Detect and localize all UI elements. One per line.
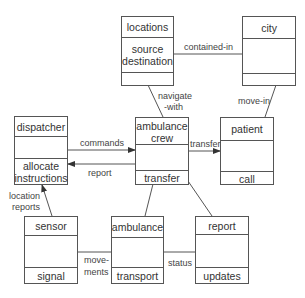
class-name: ambulance crew: [136, 119, 188, 144]
class-name: sensor: [25, 217, 77, 235]
class-dispatcher[interactable]: dispatcher allocate instructions: [14, 116, 68, 185]
label-with: -with: [164, 102, 183, 112]
class-name: city: [243, 17, 295, 38]
class-name-text: report: [208, 220, 235, 232]
class-ambulance[interactable]: ambulance transport: [111, 216, 164, 284]
operation-signal: signal: [37, 270, 64, 282]
label-reports: reports: [12, 202, 40, 212]
class-name-text: dispatcher: [17, 121, 65, 133]
class-patient[interactable]: patient call: [220, 117, 274, 185]
class-name-text: city: [261, 22, 277, 34]
label-move: move-: [84, 255, 109, 265]
operation-updates: updates: [203, 270, 240, 282]
class-operations: allocate instructions: [15, 159, 67, 185]
class-city[interactable]: city: [242, 16, 296, 86]
class-name: ambulance: [112, 217, 163, 237]
class-operations: updates: [196, 268, 248, 284]
class-locations[interactable]: locations source destination: [121, 16, 174, 86]
class-name-text: ambulance: [112, 221, 163, 233]
edge-location-reports: [42, 185, 52, 216]
class-name-text: sensor: [35, 220, 67, 232]
class-attributes: source destination: [122, 38, 173, 72]
operation-instructions: instructions: [14, 172, 67, 184]
operation-call: call: [239, 173, 255, 185]
label-ments: ments: [84, 267, 109, 277]
class-name-text: patient: [231, 123, 263, 135]
divider: [196, 234, 248, 235]
class-operations: signal: [25, 268, 77, 284]
operation-transfer: transfer: [144, 172, 180, 184]
class-name-text: locations: [127, 21, 168, 33]
class-operations: call: [221, 172, 273, 185]
divider: [243, 38, 295, 39]
edge-navigate-with: [148, 85, 163, 117]
label-transfer: transfer: [190, 139, 221, 149]
divider: [221, 140, 273, 141]
class-name-line2: crew: [151, 132, 173, 144]
divider: [15, 136, 67, 137]
operation-transport: transport: [117, 270, 158, 282]
edge-crew-report: [188, 181, 212, 216]
class-operations: transfer: [136, 171, 188, 185]
class-name: patient: [221, 118, 273, 140]
label-navigate: navigate: [158, 91, 192, 101]
class-name: locations: [122, 17, 173, 37]
class-sensor[interactable]: sensor signal: [24, 216, 78, 284]
class-name: dispatcher: [15, 117, 67, 136]
label-commands: commands: [80, 138, 124, 148]
attribute-source: source: [132, 43, 164, 55]
class-operations: transport: [112, 268, 163, 284]
edge-crew-ambulance: [145, 184, 153, 216]
divider: [25, 235, 77, 236]
label-move-in: move-in: [238, 96, 270, 106]
divider: [243, 73, 295, 74]
label-status: status: [168, 258, 192, 268]
attribute-destination: destination: [122, 55, 173, 67]
class-report[interactable]: report updates: [195, 216, 249, 284]
label-contained-in: contained-in: [184, 42, 233, 52]
operation-allocate: allocate: [23, 160, 59, 172]
label-report: report: [88, 168, 112, 178]
class-name: report: [196, 217, 248, 234]
class-ambulance-crew[interactable]: ambulance crew transfer: [135, 117, 189, 185]
label-location: location: [9, 191, 40, 201]
divider: [136, 144, 188, 145]
divider: [112, 237, 163, 238]
divider: [122, 72, 173, 73]
class-name-line1: ambulance: [136, 120, 187, 132]
